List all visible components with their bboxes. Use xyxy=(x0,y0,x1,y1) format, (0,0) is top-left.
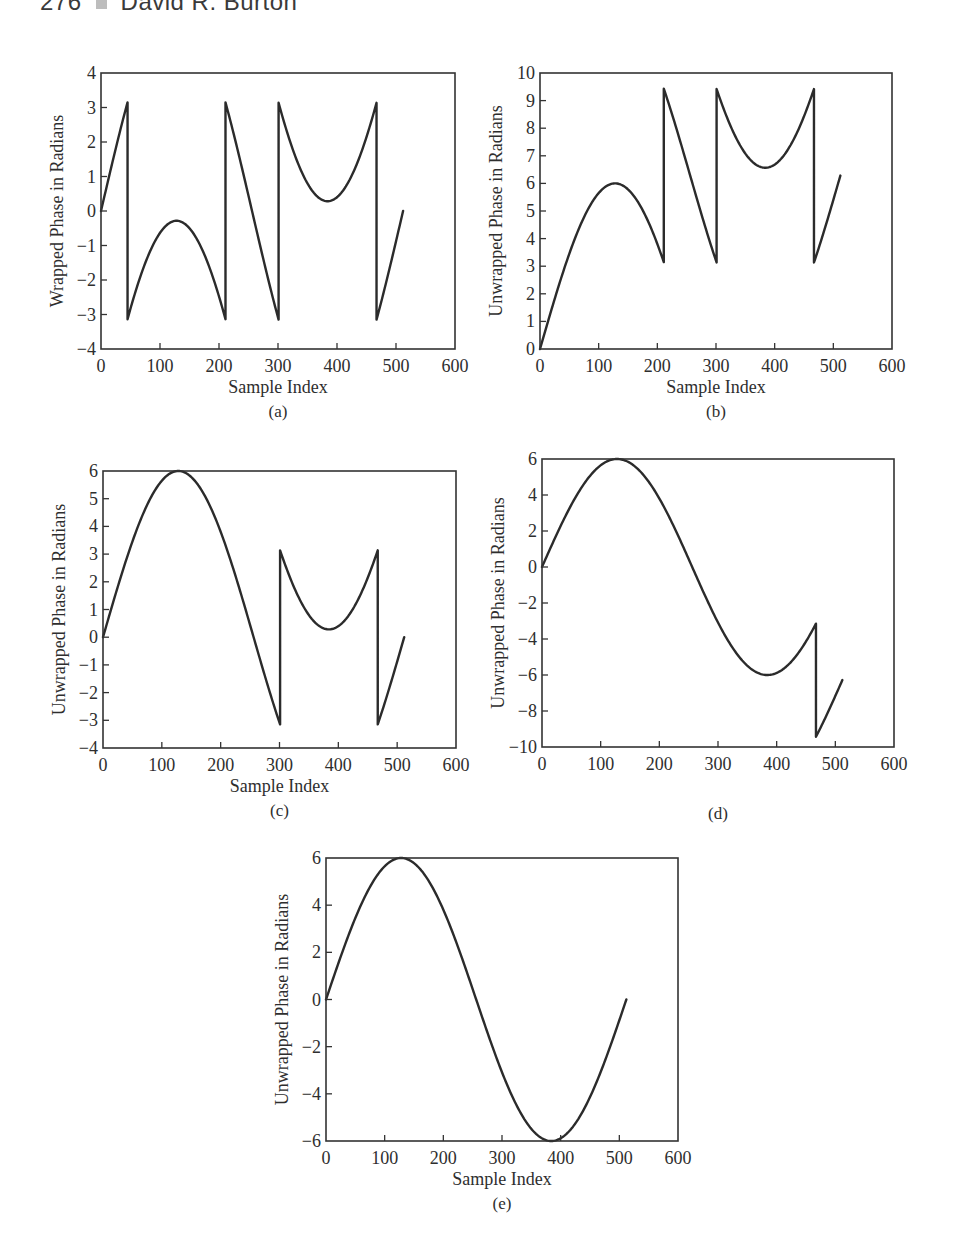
x-tick-label: 100 xyxy=(371,1148,398,1168)
x-tick-label: 200 xyxy=(430,1148,457,1168)
y-tick-label: 1 xyxy=(89,600,98,620)
y-axis-label: Wrapped Phase in Radians xyxy=(47,115,67,308)
x-tick-label: 500 xyxy=(384,755,411,775)
y-tick-label: −3 xyxy=(79,710,98,730)
y-tick-label: −1 xyxy=(77,236,96,256)
y-tick-label: 6 xyxy=(526,173,535,193)
y-tick-label: 3 xyxy=(89,544,98,564)
y-tick-label: 3 xyxy=(526,256,535,276)
x-tick-label: 0 xyxy=(97,356,106,376)
x-tick-label: 200 xyxy=(206,356,233,376)
chart-b: 0100200300400500600012345678910Sample In… xyxy=(486,63,906,421)
x-axis-label: Sample Index xyxy=(230,776,329,796)
data-line xyxy=(540,89,840,349)
y-tick-label: 2 xyxy=(89,572,98,592)
y-tick-label: −2 xyxy=(79,683,98,703)
x-tick-label: 600 xyxy=(443,755,470,775)
data-line xyxy=(326,858,626,1141)
y-tick-label: −6 xyxy=(518,665,537,685)
y-tick-label: 10 xyxy=(517,63,535,83)
y-tick-label: 4 xyxy=(89,516,98,536)
y-tick-label: 0 xyxy=(89,627,98,647)
chart-d: 0100200300400500600−10−8−6−4−20246Unwrap… xyxy=(488,449,908,823)
data-line xyxy=(103,471,404,724)
x-tick-label: 500 xyxy=(606,1148,633,1168)
panel-label: (b) xyxy=(706,402,726,421)
x-axis-label: Sample Index xyxy=(666,377,765,397)
y-tick-label: 0 xyxy=(528,557,537,577)
y-tick-label: 2 xyxy=(312,942,321,962)
y-tick-label: 2 xyxy=(87,132,96,152)
y-tick-label: −2 xyxy=(518,593,537,613)
x-tick-label: 600 xyxy=(881,754,908,774)
x-tick-label: 600 xyxy=(665,1148,692,1168)
panel-label: (a) xyxy=(269,402,288,421)
data-line xyxy=(101,102,403,319)
y-tick-label: 1 xyxy=(526,311,535,331)
y-tick-label: 0 xyxy=(312,990,321,1010)
x-tick-label: 100 xyxy=(148,755,175,775)
y-tick-label: −2 xyxy=(77,270,96,290)
y-tick-label: 9 xyxy=(526,91,535,111)
x-tick-label: 300 xyxy=(266,755,293,775)
y-tick-label: 2 xyxy=(526,284,535,304)
y-tick-label: −6 xyxy=(302,1131,321,1151)
chart-c: 0100200300400500600−4−3−2−10123456Sample… xyxy=(49,461,470,820)
x-tick-label: 400 xyxy=(325,755,352,775)
y-tick-label: 8 xyxy=(526,118,535,138)
x-tick-label: 400 xyxy=(547,1148,574,1168)
plot-area-frame xyxy=(542,459,894,747)
y-tick-label: −4 xyxy=(79,738,98,758)
data-line xyxy=(542,459,842,737)
x-tick-label: 0 xyxy=(322,1148,331,1168)
y-axis-label: Unwrapped Phase in Radians xyxy=(488,497,508,708)
y-tick-label: 6 xyxy=(312,848,321,868)
x-tick-label: 500 xyxy=(822,754,849,774)
y-tick-label: 7 xyxy=(526,146,535,166)
y-axis-label: Unwrapped Phase in Radians xyxy=(486,105,506,316)
y-tick-label: 3 xyxy=(87,98,96,118)
x-tick-label: 300 xyxy=(703,356,730,376)
y-tick-label: 4 xyxy=(528,485,537,505)
x-tick-label: 0 xyxy=(536,356,545,376)
x-tick-label: 500 xyxy=(820,356,847,376)
x-tick-label: 300 xyxy=(705,754,732,774)
x-tick-label: 600 xyxy=(442,356,469,376)
x-tick-label: 100 xyxy=(585,356,612,376)
y-tick-label: −2 xyxy=(302,1037,321,1057)
y-axis-label: Unwrapped Phase in Radians xyxy=(49,504,69,715)
x-tick-label: 0 xyxy=(99,755,108,775)
figure: 0100200300400500600−4−3−2−101234Sample I… xyxy=(0,0,953,1256)
x-axis-label: Sample Index xyxy=(452,1169,551,1189)
y-tick-label: 4 xyxy=(87,63,96,83)
y-tick-label: −1 xyxy=(79,655,98,675)
y-tick-label: 0 xyxy=(87,201,96,221)
y-tick-label: −4 xyxy=(77,339,96,359)
y-tick-label: 5 xyxy=(526,201,535,221)
panel-label: (d) xyxy=(708,804,728,823)
y-tick-label: 0 xyxy=(526,339,535,359)
panel-label: (c) xyxy=(270,801,289,820)
panel-label: (e) xyxy=(493,1194,512,1213)
x-tick-label: 300 xyxy=(265,356,292,376)
y-tick-label: 4 xyxy=(312,895,321,915)
x-tick-label: 200 xyxy=(646,754,673,774)
x-tick-label: 100 xyxy=(587,754,614,774)
y-tick-label: 6 xyxy=(89,461,98,481)
chart-e: 0100200300400500600−6−4−20246Sample Inde… xyxy=(272,848,692,1213)
x-tick-label: 400 xyxy=(761,356,788,376)
y-tick-label: −3 xyxy=(77,305,96,325)
y-tick-label: −4 xyxy=(518,629,537,649)
x-tick-label: 400 xyxy=(763,754,790,774)
y-tick-label: −8 xyxy=(518,701,537,721)
y-tick-label: 4 xyxy=(526,229,535,249)
y-tick-label: −10 xyxy=(509,737,537,757)
x-tick-label: 0 xyxy=(538,754,547,774)
x-axis-label: Sample Index xyxy=(228,377,327,397)
y-tick-label: 6 xyxy=(528,449,537,469)
x-tick-label: 500 xyxy=(383,356,410,376)
y-axis-label: Unwrapped Phase in Radians xyxy=(272,894,292,1105)
chart-a: 0100200300400500600−4−3−2−101234Sample I… xyxy=(47,63,469,421)
x-tick-label: 100 xyxy=(147,356,174,376)
y-tick-label: 2 xyxy=(528,521,537,541)
